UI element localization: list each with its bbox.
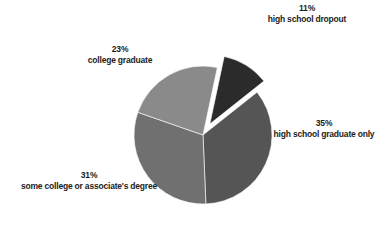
pie-label-high-school-graduate-only: 35% high school graduate only (262, 119, 386, 139)
pie-label-text: college graduate (54, 56, 186, 66)
pie-chart-canvas (0, 0, 386, 225)
pie-label-high-school-dropout: 11% high school dropout (228, 4, 386, 24)
pie-label-percent: 11% (228, 4, 386, 14)
pie-label-percent: 23% (54, 45, 186, 55)
pie-label-college-graduate: 23% college graduate (54, 45, 186, 65)
pie-chart: 11% high school dropout 35% high school … (0, 0, 386, 225)
pie-label-text: high school dropout (228, 15, 386, 25)
pie-label-text: some college or associate's degree (0, 182, 178, 192)
pie-label-some-college-or-associates-degree: 31% some college or associate's degree (0, 171, 178, 191)
pie-label-percent: 35% (262, 119, 386, 129)
pie-label-percent: 31% (0, 171, 178, 181)
pie-label-text: high school graduate only (262, 130, 386, 140)
